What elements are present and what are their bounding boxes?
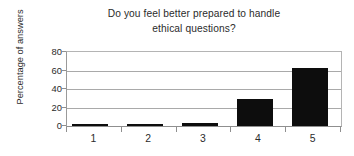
y-tick-label: 80 <box>36 46 62 57</box>
x-tick-mark <box>230 127 231 132</box>
x-axis: 12345 <box>66 127 340 156</box>
x-tick-label: 2 <box>128 133 168 144</box>
x-tick-label: 1 <box>73 133 113 144</box>
y-tick-label: 40 <box>36 83 62 94</box>
y-tick-mark <box>62 70 66 71</box>
x-tick-label: 5 <box>293 133 333 144</box>
x-tick-mark <box>176 127 177 132</box>
chart-title: Do you feel better prepared to handle et… <box>44 6 344 36</box>
bars-layer <box>67 52 341 126</box>
x-tick-label: 3 <box>183 133 223 144</box>
y-tick-mark <box>62 88 66 89</box>
x-tick-mark <box>66 127 67 132</box>
plot-area <box>66 51 342 127</box>
bar <box>182 123 218 126</box>
y-tick-mark <box>62 107 66 108</box>
y-axis-title: Percentage of answers <box>15 3 25 111</box>
bar <box>237 99 273 126</box>
bar-chart-figure: Do you feel better prepared to handle et… <box>0 0 354 156</box>
y-tick-mark <box>62 125 66 126</box>
x-tick-label: 4 <box>238 133 278 144</box>
y-tick-label: 20 <box>36 101 62 112</box>
x-tick-mark <box>285 127 286 132</box>
x-tick-mark <box>340 127 341 132</box>
bar <box>292 68 328 126</box>
y-tick-label: 0 <box>36 120 62 131</box>
y-tick-mark <box>62 51 66 52</box>
bar <box>127 124 163 126</box>
bar <box>72 124 108 126</box>
y-tick-label: 60 <box>36 64 62 75</box>
x-tick-mark <box>121 127 122 132</box>
chart-title-line-2: ethical questions? <box>44 21 344 36</box>
chart-title-line-1: Do you feel better prepared to handle <box>44 6 344 21</box>
